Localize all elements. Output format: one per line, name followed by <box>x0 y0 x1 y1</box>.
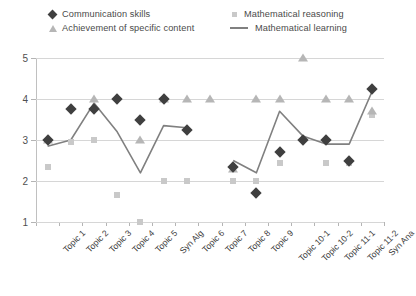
data-point <box>367 107 377 115</box>
x-axis-tick-label: Topic 7 <box>223 228 249 254</box>
legend-item-mathematical-learning: Mathematical learning <box>230 23 347 33</box>
x-axis-tick-label: Topic 11-2 <box>366 228 401 263</box>
data-point <box>137 219 143 225</box>
x-axis-tick-label: Topic 1 <box>61 228 87 254</box>
x-axis-tick-label: Topic 10-1 <box>296 228 331 263</box>
data-point <box>68 139 74 145</box>
x-axis-tick-label: Topic 10-2 <box>319 228 354 263</box>
data-point <box>323 160 329 166</box>
plot-area <box>36 58 384 222</box>
line-icon <box>230 24 250 33</box>
legend-label: Mathematical learning <box>255 23 347 33</box>
gridline <box>36 222 384 223</box>
legend-label: Communication skills <box>62 9 150 19</box>
y-axis-tick-label: 4 <box>2 94 28 105</box>
x-axis-tick-label: Topic 8 <box>246 228 272 254</box>
x-axis-tick-label: Topic 5 <box>153 228 179 254</box>
data-point <box>298 54 308 62</box>
x-axis-tick-label: Topic 11-1 <box>342 228 377 263</box>
x-axis-tick-label: Topic 4 <box>130 228 156 254</box>
y-axis-tick-label: 5 <box>2 53 28 64</box>
x-axis-tick-label: Topic 6 <box>200 228 226 254</box>
data-point <box>89 95 99 103</box>
y-axis-tick-label: 1 <box>2 217 28 228</box>
legend-label: Achievement of specific content <box>62 23 194 33</box>
data-point <box>182 95 192 103</box>
y-axis-tick-label: 2 <box>2 176 28 187</box>
chart-legend: Communication skills Achievement of spec… <box>48 8 392 44</box>
square-icon <box>230 10 239 19</box>
legend-item-mathematical-reasoning: Mathematical reasoning <box>230 9 344 19</box>
diamond-icon <box>48 10 57 19</box>
mathematical-learning-line <box>36 58 384 222</box>
legend-label: Mathematical reasoning <box>244 9 344 19</box>
x-axis-tick-label: Syn Ana <box>387 228 416 258</box>
data-point <box>45 164 51 170</box>
data-point <box>114 192 120 198</box>
x-axis-tick-label: Topic 2 <box>84 228 110 254</box>
data-point <box>91 137 97 143</box>
data-point <box>251 95 261 103</box>
x-axis-tick-label: Topic 3 <box>107 228 133 254</box>
data-point <box>205 95 215 103</box>
x-axis-tick-label: Syn Alg <box>177 228 205 256</box>
legend-item-communication-skills: Communication skills <box>48 9 150 19</box>
y-axis-tick-label: 3 <box>2 135 28 146</box>
data-point <box>135 136 145 144</box>
data-point <box>275 95 285 103</box>
data-point <box>344 95 354 103</box>
data-point <box>253 178 259 184</box>
data-point <box>230 178 236 184</box>
data-point <box>277 160 283 166</box>
data-point <box>321 95 331 103</box>
triangle-icon <box>48 24 57 33</box>
data-point <box>161 178 167 184</box>
x-axis-tick-label: Topic 9 <box>269 228 295 254</box>
x-axis-tick <box>384 222 385 226</box>
legend-item-achievement-of-specific-content: Achievement of specific content <box>48 23 194 33</box>
data-point <box>184 178 190 184</box>
